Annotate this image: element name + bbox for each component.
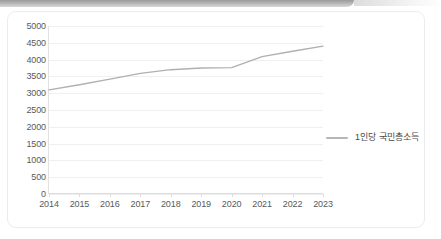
x-axis-tick-label: 2017 <box>125 199 155 209</box>
y-axis-tick-label: 2500 <box>8 106 46 115</box>
x-axis-tick-label: 2019 <box>186 199 216 209</box>
x-axis-tick-labels: 2014201520162017201820192020202120222023 <box>49 199 323 213</box>
x-axis-tick-label: 2023 <box>308 199 338 209</box>
y-axis-tick-labels: 5000450040003500300025002000150010005000 <box>8 26 46 194</box>
x-axis-tick-mark <box>171 194 172 197</box>
gridline <box>49 194 323 195</box>
x-axis-tick-mark <box>49 194 50 197</box>
x-axis-tick-label: 2018 <box>156 199 186 209</box>
x-axis-tick-label: 2016 <box>95 199 125 209</box>
x-axis-tick-label: 2014 <box>34 199 64 209</box>
y-axis-tick-label: 4000 <box>8 55 46 64</box>
y-axis-tick-label: 500 <box>8 173 46 182</box>
x-axis-tick-mark <box>110 194 111 197</box>
legend-line-swatch <box>326 137 348 139</box>
y-axis-tick-label: 3500 <box>8 72 46 81</box>
chart-card: 5000450040003500300025002000150010005000… <box>7 11 425 228</box>
x-axis-tick-mark <box>293 194 294 197</box>
x-axis-tick-label: 2015 <box>64 199 94 209</box>
y-axis-tick-label: 1000 <box>8 156 46 165</box>
x-axis-tick-label: 2020 <box>217 199 247 209</box>
chart-plot-wrapper: 5000450040003500300025002000150010005000… <box>8 12 426 227</box>
y-axis-tick-label: 0 <box>8 190 46 199</box>
x-axis-tick-mark <box>201 194 202 197</box>
y-axis-tick-label: 4500 <box>8 38 46 47</box>
x-axis-tick-label: 2021 <box>247 199 277 209</box>
plot-area <box>49 26 323 194</box>
legend-item-label: 1인당 국민총소득 <box>355 132 419 143</box>
top-scroll-bar <box>0 0 354 7</box>
y-axis-tick-label: 5000 <box>8 22 46 31</box>
line-series-svg <box>49 26 323 194</box>
x-axis-tick-label: 2022 <box>278 199 308 209</box>
x-axis-tick-mark <box>323 194 324 197</box>
x-axis-tick-mark <box>262 194 263 197</box>
y-axis-tick-label: 2000 <box>8 122 46 131</box>
x-axis-tick-mark <box>79 194 80 197</box>
series-line <box>49 46 323 90</box>
x-axis-tick-mark <box>140 194 141 197</box>
x-axis-tick-mark <box>232 194 233 197</box>
top-scroll-bar-fade <box>354 0 441 6</box>
chart-legend: 1인당 국민총소득 <box>326 132 419 143</box>
y-axis-tick-label: 3000 <box>8 89 46 98</box>
y-axis-tick-label: 1500 <box>8 139 46 148</box>
